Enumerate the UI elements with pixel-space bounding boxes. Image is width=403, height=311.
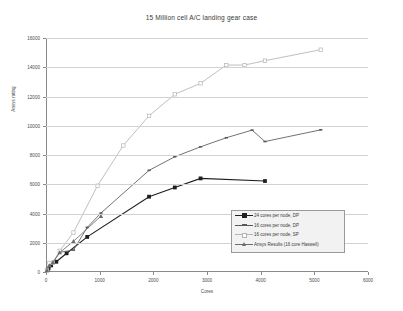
data-point: [225, 137, 228, 139]
legend-label: 16 cores per node, DP: [253, 223, 299, 228]
legend-label: 24 cores per node, DP: [253, 213, 299, 218]
legend-label: 16 cores per node, SP: [253, 232, 299, 237]
gridline: [46, 97, 368, 98]
legend-item-1[interactable]: 16 cores per node, DP: [232, 221, 344, 231]
y-tick-label: 14000: [27, 65, 40, 70]
data-point: [122, 144, 125, 147]
x-tick-label: 6000: [363, 278, 373, 283]
y-tick-label: 4000: [30, 211, 40, 216]
x-tick-mark: [314, 272, 315, 275]
y-tick-mark: [43, 97, 46, 98]
data-point: [147, 170, 150, 172]
y-axis-title: Ansys rating: [11, 69, 16, 129]
y-tick-label: 8000: [30, 153, 40, 158]
legend-marker-icon: [235, 211, 253, 220]
y-tick-label: 6000: [30, 182, 40, 187]
data-point: [173, 186, 177, 190]
data-point: [199, 146, 202, 148]
data-point: [147, 195, 151, 199]
chart-container: 15 Million cell A/C landing gear case An…: [0, 0, 403, 311]
data-point: [225, 63, 228, 66]
data-point: [173, 93, 176, 96]
data-point: [319, 48, 322, 51]
y-tick-label: 2000: [30, 240, 40, 245]
x-tick-label: 4000: [256, 278, 266, 283]
gridline: [46, 67, 368, 68]
y-tick-label: 10000: [27, 123, 40, 128]
gridline: [46, 155, 368, 156]
x-tick-mark: [261, 272, 262, 275]
gridline: [46, 126, 368, 127]
chart-legend: 24 cores per node, DP16 cores per node, …: [231, 210, 345, 253]
y-tick-mark: [43, 38, 46, 39]
x-tick-mark: [100, 272, 101, 275]
x-tick-mark: [153, 272, 154, 275]
data-point: [199, 177, 203, 181]
x-tick-mark: [368, 272, 369, 275]
legend-item-0[interactable]: 24 cores per node, DP: [232, 211, 344, 221]
x-tick-label: 0: [45, 278, 48, 283]
y-tick-mark: [43, 184, 46, 185]
data-point: [263, 141, 266, 143]
data-point: [243, 63, 246, 66]
y-tick-label: 0: [37, 270, 40, 275]
legend-marker-icon: [235, 221, 253, 230]
y-tick-label: 16000: [27, 36, 40, 41]
x-axis-title: Cores: [46, 289, 368, 294]
legend-label: Ansys Results (16 core Haswell): [253, 242, 319, 247]
data-point: [72, 231, 75, 234]
legend-marker-icon: [235, 240, 253, 249]
data-point: [65, 251, 69, 255]
data-point: [319, 129, 322, 131]
data-point: [173, 156, 176, 158]
y-tick-mark: [43, 67, 46, 68]
y-tick-mark: [43, 126, 46, 127]
legend-item-3[interactable]: Ansys Results (16 core Haswell): [232, 240, 344, 250]
y-tick-mark: [43, 214, 46, 215]
y-tick-mark: [43, 155, 46, 156]
y-tick-mark: [43, 243, 46, 244]
chart-title: 15 Million cell A/C landing gear case: [0, 14, 403, 21]
data-point: [263, 179, 267, 183]
legend-item-2[interactable]: 16 cores per node, SP: [232, 230, 344, 240]
x-tick-label: 2000: [148, 278, 158, 283]
data-point: [250, 129, 253, 131]
data-point: [199, 82, 202, 85]
gridline: [46, 184, 368, 185]
data-point: [72, 249, 75, 251]
data-point: [85, 235, 89, 239]
x-axis-ticks: 0100020003000400050006000: [46, 272, 368, 286]
data-point: [263, 59, 266, 62]
x-tick-label: 1000: [95, 278, 105, 283]
x-tick-mark: [46, 272, 47, 275]
gridline: [46, 38, 368, 39]
data-point: [54, 260, 58, 264]
legend-marker-icon: [235, 230, 253, 239]
x-tick-mark: [207, 272, 208, 275]
x-tick-label: 3000: [202, 278, 212, 283]
x-tick-label: 5000: [309, 278, 319, 283]
y-tick-label: 12000: [27, 94, 40, 99]
data-point: [147, 114, 150, 117]
